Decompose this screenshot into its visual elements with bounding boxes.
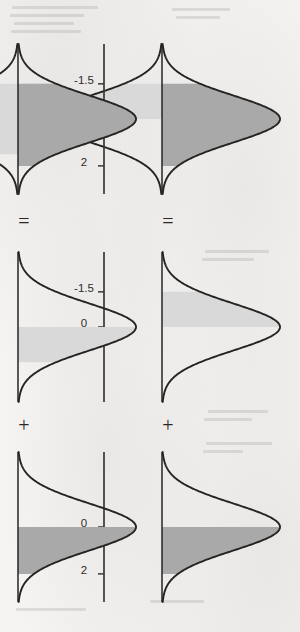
axis-tick-label: 2 bbox=[81, 156, 87, 168]
panel-bottom-middle-component: 01.5 bbox=[0, 252, 136, 402]
operator-plus: + bbox=[18, 414, 29, 436]
shaded-region-dark bbox=[162, 84, 280, 166]
shaded-region-dark bbox=[162, 527, 280, 574]
figure-svg: -1.502-1.5002-1.50201.502 =+=+ bbox=[0, 0, 300, 632]
axis-tick-label: -1.5 bbox=[74, 282, 94, 294]
normal-decomposition-figure: -1.502-1.5002-1.50201.502 =+=+ bbox=[0, 0, 300, 632]
operators-layer: =+=+ bbox=[18, 210, 173, 436]
operator-plus: + bbox=[162, 414, 173, 436]
shaded-region-light bbox=[18, 327, 136, 362]
shaded-region-dark bbox=[18, 527, 136, 574]
panel-bottom-right-component: 02 bbox=[0, 452, 136, 602]
shaded-region-light-mirrored bbox=[0, 84, 18, 154]
figure-rotator: -1.502-1.5002-1.50201.502 =+=+ bbox=[0, 0, 300, 632]
operator-equals: = bbox=[18, 210, 29, 232]
axis-tick-label: -1.5 bbox=[74, 74, 94, 86]
axis-tick-label: 2 bbox=[81, 564, 87, 576]
operator-equals: = bbox=[162, 210, 173, 232]
shaded-region-light bbox=[162, 292, 280, 327]
panel-bottom-left-result: -1.502 bbox=[0, 44, 136, 194]
panels-layer: -1.502-1.5002-1.50201.502 bbox=[0, 44, 280, 602]
